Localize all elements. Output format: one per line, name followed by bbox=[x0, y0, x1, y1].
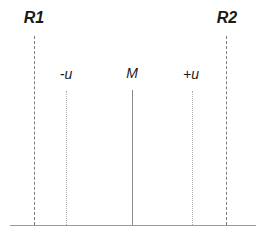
measurement-uncertainty-diagram: R1 -u M +u R2 bbox=[0, 0, 265, 241]
marker-line-plus-u bbox=[192, 91, 193, 225]
marker-label-minus-u: -u bbox=[60, 67, 72, 81]
marker-line-minus-u bbox=[66, 91, 67, 225]
marker-line-R1 bbox=[34, 36, 35, 225]
marker-label-plus-u: +u bbox=[183, 67, 199, 81]
marker-label-R1: R1 bbox=[24, 10, 44, 26]
marker-line-R2 bbox=[226, 36, 227, 225]
marker-label-R2: R2 bbox=[217, 10, 237, 26]
marker-line-M bbox=[132, 90, 133, 225]
axis-baseline bbox=[10, 225, 256, 226]
marker-label-M: M bbox=[126, 66, 138, 80]
